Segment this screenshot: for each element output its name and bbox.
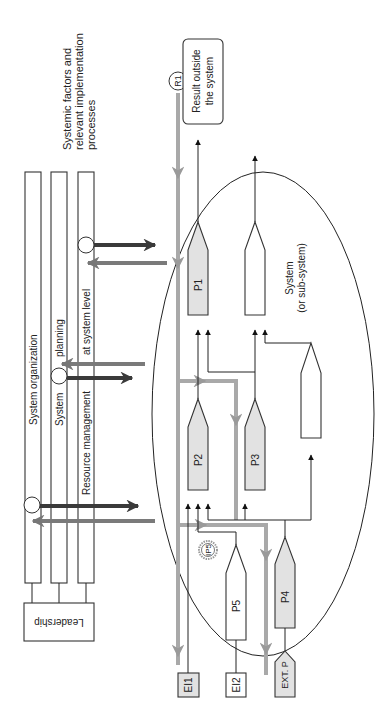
process-p1-label: P1 [193,278,204,291]
external-inputs: EI1 EI2 [178,673,246,697]
title-note: Systemic factors and relevant implementa… [61,33,97,150]
process-system-diagram: Systemic factors and relevant implementa… [0,0,380,715]
gray-flows [178,93,266,675]
process-p5 [226,545,246,640]
result-box [183,39,223,124]
external-process-label: EXT. P [280,661,290,689]
process-blank-upper [245,222,265,315]
bar2-node [51,368,67,384]
bar-label-system: System [54,393,65,426]
process-p3 [245,399,265,490]
process-p2-label: P2 [193,453,204,466]
result-line-1: Result outside [191,49,202,113]
bar-label-planning: planning [54,319,65,357]
system-label-line-2: (or sub-system) [296,243,307,312]
bar-label-system-organization: System organization [28,334,39,425]
system-label-line-1: System [284,261,295,294]
ei1-label: EI1 [183,677,194,692]
leadership-label: Leadership [34,617,84,628]
process-p2 [188,399,208,490]
leadership: Leadership [24,583,94,641]
ei2-label: EI2 [231,677,242,692]
bar1-node [24,497,40,513]
bar3-node [78,237,94,253]
process-p1 [188,222,208,315]
bar-label-at-system-level: at system level [81,289,92,355]
ip5-label: IP5 [204,543,213,556]
process-p4 [275,537,295,628]
r1-label: R1 [173,75,183,87]
bar-label-resource-management: Resource management [81,391,92,495]
process-p3-label: P3 [250,453,261,466]
ip5-marker: IP5 [199,541,217,559]
title-line-1: Systemic factors and [61,48,73,150]
bar-system-arrows [24,237,167,521]
process-p4-label: P4 [280,590,291,603]
process-p5-label: P5 [231,599,242,612]
title-line-3: processes [85,99,97,150]
title-line-2: relevant implementation [73,33,85,150]
process-blank-right [301,343,321,438]
result-line-2: the system [204,57,215,105]
